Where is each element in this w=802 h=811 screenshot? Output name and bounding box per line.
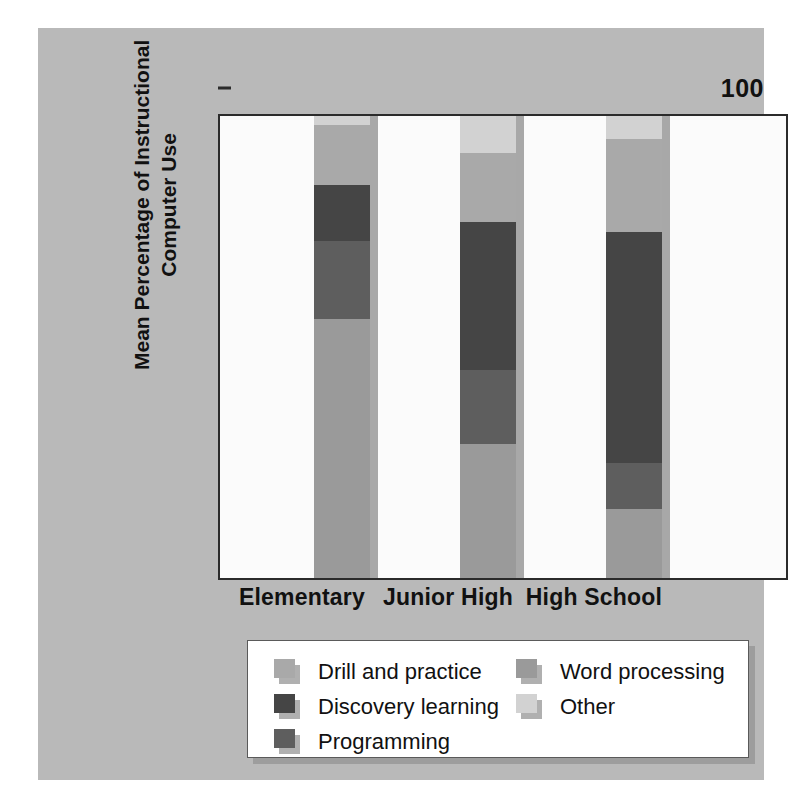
y-tick-label-100: 100 — [684, 74, 764, 103]
bar-segment-programming — [460, 370, 516, 444]
bar-segment-discovery-learning — [606, 232, 662, 463]
bar-segment-drill-and-practice — [314, 125, 370, 185]
bar-segment-drill-and-practice — [606, 139, 662, 231]
legend-swatch — [516, 659, 537, 678]
chart-screenshot: Mean Percentage of Instructional Compute… — [0, 0, 802, 811]
legend-label: Word processing — [560, 661, 725, 683]
legend-swatch-icon — [516, 694, 546, 720]
legend-label: Other — [560, 696, 615, 718]
y-axis-title-line1: Mean Percentage of Instructional — [129, 0, 156, 415]
bars-layer — [220, 116, 786, 578]
legend-label: Programming — [318, 731, 450, 753]
legend-item: Discovery learning — [274, 689, 499, 724]
bar-segment-other — [314, 116, 370, 125]
legend-item: Other — [516, 689, 725, 724]
y-tick-mark-100 — [218, 87, 231, 90]
bar-junior-high — [460, 116, 516, 578]
legend-swatch-icon — [274, 659, 304, 685]
bar-elementary — [314, 116, 370, 578]
plot-area — [218, 114, 788, 580]
bar-segment-drill-and-practice — [460, 153, 516, 222]
legend-label: Drill and practice — [318, 661, 482, 683]
legend-swatch — [274, 659, 295, 678]
bar-segment-discovery-learning — [314, 185, 370, 240]
bar-segment-discovery-learning — [460, 222, 516, 370]
bar-segment-programming — [314, 241, 370, 320]
legend-item: Programming — [274, 724, 499, 759]
legend: Drill and practiceDiscovery learningProg… — [247, 640, 749, 758]
bar-segment-word-processing — [606, 509, 662, 578]
bar-segment-word-processing — [460, 444, 516, 578]
legend-swatch-icon — [516, 659, 546, 685]
legend-swatch-icon — [274, 694, 304, 720]
legend-item: Word processing — [516, 654, 725, 689]
category-label-2: High School — [494, 584, 694, 611]
legend-label: Discovery learning — [318, 696, 499, 718]
bar-segment-other — [460, 116, 516, 153]
bar-segment-programming — [606, 463, 662, 509]
legend-swatch — [516, 694, 537, 713]
y-axis-title: Mean Percentage of Instructional Compute… — [129, 0, 183, 415]
legend-item: Drill and practice — [274, 654, 499, 689]
legend-swatch — [274, 694, 295, 713]
legend-column-left: Drill and practiceDiscovery learningProg… — [274, 654, 499, 759]
bar-segment-other — [606, 116, 662, 139]
legend-column-right: Word processingOther — [516, 654, 725, 724]
y-axis-title-line2: Computer Use — [156, 0, 183, 415]
bar-segment-word-processing — [314, 319, 370, 578]
legend-swatch — [274, 729, 295, 748]
bar-high-school — [606, 116, 662, 578]
legend-swatch-icon — [274, 729, 304, 755]
page-panel: Mean Percentage of Instructional Compute… — [38, 28, 764, 780]
